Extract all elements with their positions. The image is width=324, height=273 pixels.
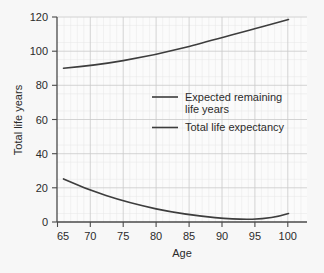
x-tick-label-75: 75 <box>117 230 129 242</box>
x-tick-label-65: 65 <box>57 230 69 242</box>
y-tick-label-100: 100 <box>30 45 48 57</box>
y-tick-label-80: 80 <box>36 79 48 91</box>
y-tick-label-60: 60 <box>36 114 48 126</box>
chart-figure: 0 20 40 60 80 100 120 65 70 75 80 85 90 … <box>0 0 324 273</box>
legend-label-expected-remaining-line1: Expected remaining <box>185 91 282 103</box>
legend-label-total-life-expectancy: Total life expectancy <box>185 121 285 133</box>
y-tick-label-20: 20 <box>36 182 48 194</box>
y-tick-label-40: 40 <box>36 148 48 160</box>
y-axis-title: Total life years <box>12 84 24 155</box>
x-tick-label-85: 85 <box>183 230 195 242</box>
y-tick-label-120: 120 <box>30 11 48 23</box>
x-tick-label-70: 70 <box>84 230 96 242</box>
x-tick-label-80: 80 <box>150 230 162 242</box>
x-tick-label-90: 90 <box>216 230 228 242</box>
y-tick-label-0: 0 <box>42 216 48 228</box>
legend-label-expected-remaining-line2: life years <box>185 103 230 115</box>
x-axis-title: Age <box>172 247 192 259</box>
life-expectancy-chart: 0 20 40 60 80 100 120 65 70 75 80 85 90 … <box>0 0 324 273</box>
x-tick-label-95: 95 <box>249 230 261 242</box>
x-tick-label-100: 100 <box>279 230 297 242</box>
